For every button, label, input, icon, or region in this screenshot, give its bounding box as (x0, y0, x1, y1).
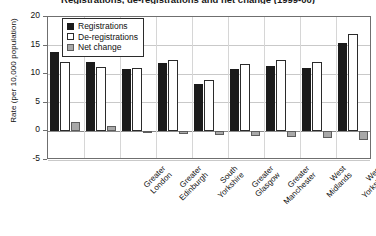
legend-item-de-registrations: De-registrations (67, 32, 138, 43)
bar-group (228, 17, 264, 158)
y-tick-label: 15 (8, 39, 40, 49)
bar-net-change (143, 131, 153, 133)
bar-net-change (71, 122, 81, 132)
bar-net-change (215, 131, 225, 135)
bar-registrations (194, 84, 204, 131)
bar-group (264, 17, 300, 158)
bar-de-registrations (168, 60, 178, 132)
bar-de-registrations (348, 34, 358, 131)
bar-de-registrations (60, 62, 70, 131)
bar-registrations (86, 62, 96, 131)
bar-de-registrations (132, 68, 142, 131)
bar-de-registrations (240, 64, 250, 131)
bar-net-change (323, 131, 333, 137)
y-tick-label: 0 (8, 124, 40, 134)
legend-swatch-icon (67, 33, 74, 40)
legend-swatch-icon (67, 44, 74, 51)
bar-net-change (287, 131, 297, 137)
bar-net-change (359, 131, 369, 140)
legend-label: Registrations (78, 21, 128, 32)
bar-de-registrations (312, 62, 322, 132)
bar-net-change (251, 131, 261, 136)
legend-label: Net change (78, 42, 121, 53)
bar-group (192, 17, 228, 158)
bar-registrations (158, 63, 168, 132)
bar-net-change (107, 126, 117, 131)
bar-registrations (122, 69, 132, 131)
bar-registrations (230, 69, 240, 131)
legend-item-net-change: Net change (67, 42, 138, 53)
bar-registrations (338, 43, 348, 131)
bar-group (156, 17, 192, 158)
x-axis-tick-labels: GreaterLondonGreaterEdinburghSouthYorksh… (47, 160, 371, 236)
chart-legend: Registrations De-registrations Net chang… (62, 18, 144, 57)
bar-group (336, 17, 372, 158)
legend-swatch-icon (67, 23, 74, 30)
chart-title: Registrations, de-registrations and net … (0, 0, 376, 4)
bar-group (300, 17, 336, 158)
y-tick-label: 10 (8, 67, 40, 77)
y-tick-label: -5 (8, 153, 40, 163)
bar-de-registrations (96, 67, 106, 131)
y-tick-label: 20 (8, 10, 40, 20)
legend-label: De-registrations (78, 32, 138, 43)
legend-item-registrations: Registrations (67, 21, 138, 32)
bar-registrations (266, 66, 276, 131)
bar-registrations (302, 68, 312, 131)
y-tick-label: 5 (8, 96, 40, 106)
bar-registrations (50, 52, 60, 131)
bar-de-registrations (276, 60, 286, 132)
bar-net-change (179, 131, 189, 134)
chart-figure: Registrations, de-registrations and net … (0, 0, 376, 236)
bar-de-registrations (204, 80, 214, 131)
